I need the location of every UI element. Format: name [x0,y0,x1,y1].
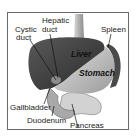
label-liver: Liver [71,50,91,59]
label-stomach: Stomach [79,69,115,78]
label-cystic-duct-line2: duct [16,34,31,42]
label-duodenum: Duodenum [27,117,66,125]
label-hepatic-duct-line1: Hepatic [42,17,69,25]
label-gallbladder: Gallbladder [10,104,51,112]
label-spleen: Spleen [101,26,126,34]
label-pancreas: Pancreas [70,122,104,130]
label-hepatic-duct-line2: duct [42,26,57,34]
